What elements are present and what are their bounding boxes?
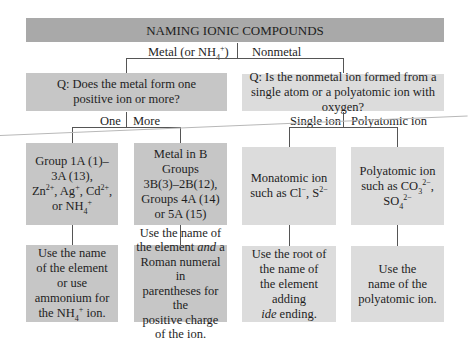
- connector-nonmetal-left: [289, 127, 290, 147]
- branch-label-metal: Metal (or NH4+): [148, 45, 229, 59]
- connector-top-left: [126, 58, 127, 73]
- category-bgroups: Metal in B Groups3B(3)–2B(12),Groups 4A …: [134, 143, 227, 225]
- rule-monatomic: Use the root ofthe name ofthe elementadd…: [242, 246, 336, 322]
- category-polyatomic: Polyatomic ionsuch as CO32−,SO42−: [351, 147, 444, 225]
- branch-label-polyatomic-ion: Polyatomic ion: [351, 114, 427, 128]
- category-monatomic: Monatomic ionsuch as Cl−, S2−: [242, 147, 336, 225]
- category-group1a: Group 1A (1)–3A (13),Zn2+, Ag+, Cd2+,or …: [26, 143, 118, 225]
- connector-top: [126, 58, 344, 59]
- question-nonmetal: Q: Is the nonmetal ion formed from a sin…: [242, 74, 444, 111]
- divider-nonmetal: [343, 112, 344, 127]
- connector-nonmetal: [289, 127, 398, 128]
- connector-metal-left: [72, 127, 73, 143]
- connector-rule-1: [72, 225, 73, 245]
- branch-label-nonmetal: Nonmetal: [252, 45, 301, 59]
- divider-metal: [126, 112, 127, 127]
- connector-nonmetal-right: [397, 127, 398, 147]
- connector-metal-right: [180, 127, 181, 143]
- connector-rule-3: [289, 225, 290, 246]
- title-bar: NAMING IONIC COMPOUNDS: [26, 18, 444, 42]
- diagram-title: NAMING IONIC COMPOUNDS: [146, 23, 324, 38]
- rule-polyatomic: Use thename of thepolyatomic ion.: [351, 246, 444, 322]
- branch-label-more: More: [133, 114, 160, 128]
- divider-top: [237, 43, 238, 59]
- connector-rule-4: [397, 225, 398, 246]
- question-metal: Q: Does the metal form one positive ion …: [26, 73, 227, 111]
- branch-label-one: One: [100, 114, 121, 128]
- rule-group1a: Use the nameof the elementor useammonium…: [26, 245, 118, 322]
- rule-bgroups: Use the name ofthe element and aRoman nu…: [134, 245, 227, 322]
